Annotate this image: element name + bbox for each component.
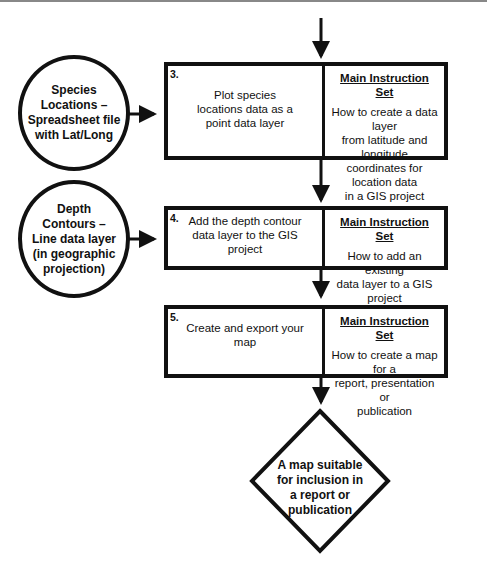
step-action-line: point data layer [197, 116, 293, 130]
step-action-line: project [188, 242, 301, 256]
output-label-line: A map suitable [275, 458, 365, 473]
output-label-line: publication [275, 503, 365, 518]
input-label-line: projection) [32, 262, 116, 277]
input-label-line: Species [28, 83, 121, 98]
instruction-title: Main Instruction Set [331, 314, 438, 342]
step-5: 5. Create and export your map Main Instr… [164, 305, 448, 378]
step-4: 4. Add the depth contour data layer to t… [164, 206, 448, 270]
instruction-line: coordinates for location data [331, 161, 438, 189]
instruction-title: Main Instruction Set [331, 215, 438, 243]
step-action-line: data layer to the GIS [188, 228, 301, 242]
instruction-title: Main Instruction Set [331, 71, 438, 99]
input-species-locations: Species Locations – Spreadsheet file wit… [18, 55, 130, 171]
instruction-line: in a GIS project [345, 189, 424, 203]
step-number: 4. [170, 211, 179, 225]
instruction-line: How to create a map for a [331, 348, 438, 376]
step-3: 3. Plot species locations data as a poin… [164, 62, 448, 160]
input-label-line: Line data layer [32, 232, 116, 247]
input-label-line: (in geographic [32, 247, 116, 262]
input-depth-contours: Depth Contours – Line data layer (in geo… [18, 180, 130, 298]
instruction-line: How to add an existing [331, 249, 438, 277]
input-label-line: Contours – [32, 217, 116, 232]
instruction-line: How to create a data layer [331, 105, 438, 133]
step-action-line: Create and export your [186, 321, 304, 335]
step-action-line: map [186, 335, 304, 349]
input-label-line: Spreadsheet file [28, 113, 121, 128]
instruction-line: publication [357, 404, 412, 418]
step-number: 3. [170, 67, 179, 81]
output-label: A map suitable for inclusion in a report… [275, 458, 365, 518]
step-action-line: Add the depth contour [188, 214, 301, 228]
instruction-line: report, presentation or [331, 376, 438, 404]
input-label-line: Locations – [28, 98, 121, 113]
output-label-line: a report or [275, 488, 365, 503]
step-action-line: locations data as a [197, 102, 293, 116]
output-label-line: for inclusion in [275, 473, 365, 488]
input-label-line: with Lat/Long [28, 128, 121, 143]
instruction-line: from latitude and longitude [331, 133, 438, 161]
step-action-line: Plot species [197, 88, 293, 102]
step-number: 5. [170, 310, 179, 324]
instruction-line: data layer to a GIS project [331, 277, 438, 305]
input-label-line: Depth [32, 202, 116, 217]
